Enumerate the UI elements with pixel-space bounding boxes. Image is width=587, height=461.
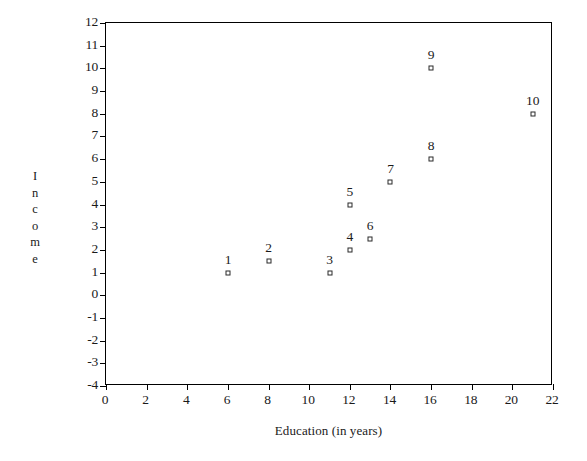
- y-tick-10: [100, 68, 106, 69]
- y-tick-6: [100, 159, 106, 160]
- data-point-label-8: 8: [428, 139, 435, 153]
- data-point-5: [347, 202, 352, 207]
- x-tick-label-0: 0: [102, 393, 109, 407]
- data-point-8: [429, 157, 434, 162]
- data-point-1: [225, 270, 230, 275]
- x-tick-label-12: 12: [342, 393, 355, 407]
- x-tick-label-6: 6: [224, 393, 231, 407]
- x-tick-18: [472, 384, 473, 390]
- y-tick-label-3: 3: [91, 219, 98, 233]
- y-tick--2: [100, 341, 106, 342]
- y-tick-9: [100, 91, 106, 92]
- y-tick-8: [100, 114, 106, 115]
- y-tick-label-6: 6: [91, 151, 98, 165]
- y-axis-title-letter-5: e: [26, 251, 44, 268]
- y-axis-title-letter-3: o: [26, 218, 44, 235]
- y-tick-12: [100, 23, 106, 24]
- y-axis-title-letter-2: c: [26, 201, 44, 218]
- x-axis-title: Education (in years): [105, 423, 552, 439]
- scatter-plot-figure: 12345678910 -4-3-2-10123456789101112 024…: [0, 0, 587, 461]
- y-tick-label-12: 12: [85, 15, 98, 29]
- x-tick-6: [228, 384, 229, 390]
- x-tick-16: [431, 384, 432, 390]
- y-tick-label--4: -4: [87, 378, 98, 392]
- x-tick-4: [187, 384, 188, 390]
- data-point-label-9: 9: [428, 48, 435, 62]
- y-tick-label-4: 4: [91, 197, 98, 211]
- x-tick-label-2: 2: [142, 393, 149, 407]
- x-tick-8: [269, 384, 270, 390]
- data-point-3: [327, 270, 332, 275]
- data-point-4: [347, 247, 352, 252]
- x-tick-10: [309, 384, 310, 390]
- x-tick-label-18: 18: [464, 393, 477, 407]
- y-tick-1: [100, 273, 106, 274]
- y-tick-3: [100, 227, 106, 228]
- y-tick-2: [100, 250, 106, 251]
- y-tick-label-7: 7: [91, 129, 98, 143]
- x-tick-label-10: 10: [302, 393, 315, 407]
- y-axis-title-letter-1: n: [26, 185, 44, 202]
- data-point-10: [530, 111, 535, 116]
- y-axis-title: Income: [26, 168, 44, 267]
- y-tick-label-5: 5: [91, 174, 98, 188]
- x-tick-label-8: 8: [264, 393, 271, 407]
- y-tick-label-8: 8: [91, 106, 98, 120]
- data-point-label-4: 4: [347, 229, 354, 243]
- y-tick-label-10: 10: [85, 61, 98, 75]
- y-tick-label--2: -2: [87, 333, 98, 347]
- data-point-2: [266, 259, 271, 264]
- y-tick-11: [100, 46, 106, 47]
- x-axis-tick-labels: 0246810121416182022: [105, 393, 552, 413]
- data-point-label-5: 5: [347, 184, 354, 198]
- y-tick-label--1: -1: [87, 310, 98, 324]
- y-tick--3: [100, 363, 106, 364]
- data-point-label-3: 3: [326, 252, 333, 266]
- x-tick-label-4: 4: [183, 393, 190, 407]
- y-tick-label-1: 1: [91, 265, 98, 279]
- x-tick-label-16: 16: [424, 393, 437, 407]
- y-axis-title-letter-4: m: [26, 234, 44, 251]
- y-tick-label--3: -3: [87, 356, 98, 370]
- data-point-label-6: 6: [367, 218, 374, 232]
- y-tick--1: [100, 318, 106, 319]
- x-tick-22: [553, 384, 554, 390]
- y-tick-7: [100, 136, 106, 137]
- y-tick-label-9: 9: [91, 83, 98, 97]
- data-point-6: [368, 236, 373, 241]
- y-tick-label-11: 11: [85, 38, 98, 52]
- plot-area: 12345678910: [105, 22, 552, 385]
- data-point-label-7: 7: [387, 161, 394, 175]
- y-tick-0: [100, 295, 106, 296]
- data-point-label-10: 10: [526, 93, 539, 107]
- y-tick-label-2: 2: [91, 242, 98, 256]
- y-tick-4: [100, 205, 106, 206]
- y-tick-5: [100, 182, 106, 183]
- x-tick-12: [350, 384, 351, 390]
- data-point-7: [388, 179, 393, 184]
- x-tick-label-22: 22: [545, 393, 558, 407]
- x-tick-2: [147, 384, 148, 390]
- x-tick-label-20: 20: [505, 393, 518, 407]
- x-tick-20: [512, 384, 513, 390]
- x-tick-14: [390, 384, 391, 390]
- y-tick-label-0: 0: [91, 288, 98, 302]
- x-tick-label-14: 14: [383, 393, 396, 407]
- data-point-label-2: 2: [265, 241, 272, 255]
- y-axis-title-letter-0: I: [26, 168, 44, 185]
- data-point-label-1: 1: [225, 252, 232, 266]
- y-axis-tick-labels: -4-3-2-10123456789101112: [72, 22, 98, 385]
- data-point-9: [429, 66, 434, 71]
- x-tick-0: [106, 384, 107, 390]
